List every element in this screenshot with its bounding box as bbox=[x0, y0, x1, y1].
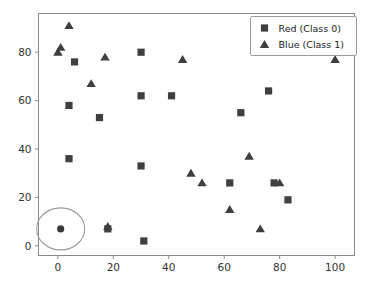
x-tick-label: 20 bbox=[107, 261, 120, 273]
highlighted-point-marker bbox=[57, 225, 64, 232]
legend-label: Red (Class 0) bbox=[279, 23, 342, 34]
scatter-point-square bbox=[226, 179, 233, 186]
scatter-plot-figure: 020406080100 020406080 Red (Class 0)Blue… bbox=[0, 0, 370, 289]
legend-label: Blue (Class 1) bbox=[279, 39, 345, 50]
y-tick-label: 80 bbox=[18, 46, 31, 58]
x-tick-label: 60 bbox=[218, 261, 231, 273]
scatter-point-square bbox=[140, 237, 147, 244]
legend[interactable]: Red (Class 0)Blue (Class 1) bbox=[251, 17, 357, 56]
scatter-point-square bbox=[137, 92, 144, 99]
scatter-point-square bbox=[96, 114, 103, 121]
scatter-point-square bbox=[168, 92, 175, 99]
y-tick-label: 0 bbox=[25, 240, 32, 252]
plot-canvas: 020406080100 020406080 Red (Class 0)Blue… bbox=[0, 0, 370, 289]
x-tick-label: 0 bbox=[55, 261, 62, 273]
y-tick-label: 60 bbox=[18, 94, 31, 106]
scatter-point-square bbox=[137, 49, 144, 56]
scatter-point-square bbox=[237, 109, 244, 116]
scatter-point-square bbox=[71, 58, 78, 65]
x-tick-label: 40 bbox=[162, 261, 175, 273]
scatter-point-square bbox=[137, 162, 144, 169]
scatter-point-square bbox=[65, 155, 72, 162]
scatter-point-square bbox=[265, 87, 272, 94]
scatter-point-square bbox=[65, 102, 72, 109]
x-tick-label: 80 bbox=[273, 261, 286, 273]
y-tick-label: 20 bbox=[18, 191, 31, 203]
x-tick-label: 100 bbox=[325, 261, 345, 273]
scatter-point-square bbox=[284, 196, 291, 203]
legend-marker-square bbox=[261, 24, 268, 31]
y-tick-label: 40 bbox=[18, 143, 31, 155]
